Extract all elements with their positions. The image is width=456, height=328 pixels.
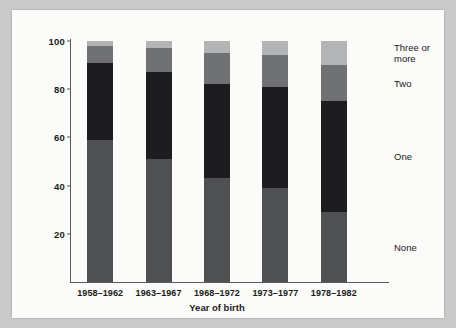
stacked-bar[interactable] — [87, 41, 113, 282]
x-axis-tick-label: 1978–1982 — [311, 288, 357, 298]
bar-segment-none[interactable] — [146, 159, 172, 282]
stacked-bar[interactable] — [204, 41, 230, 282]
bar-segment-one[interactable] — [321, 101, 347, 212]
bar-segment-three-or-more[interactable] — [262, 41, 288, 55]
legend-label-none: None — [394, 242, 417, 253]
x-axis-tick-label: 1958–1962 — [77, 288, 123, 298]
bar-segment-none[interactable] — [262, 188, 288, 282]
bar-segment-three-or-more[interactable] — [321, 41, 347, 65]
x-axis-tick-label: 1963–1967 — [136, 288, 182, 298]
bar-group[interactable]: 1958–1962 — [71, 41, 129, 282]
x-axis-line — [70, 282, 389, 283]
bar-segment-one[interactable] — [87, 63, 113, 140]
bar-segment-one[interactable] — [146, 72, 172, 159]
bar-segment-none[interactable] — [87, 140, 113, 282]
bar-segment-two[interactable] — [146, 48, 172, 72]
x-axis-tick-label: 1968–1972 — [194, 288, 240, 298]
bar-segment-three-or-more[interactable] — [146, 41, 172, 48]
stacked-bar[interactable] — [321, 41, 347, 282]
x-axis-title: Year of birth — [71, 302, 363, 313]
bar-segment-one[interactable] — [262, 87, 288, 188]
legend-label-one: One — [394, 151, 412, 162]
bar-segment-two[interactable] — [204, 53, 230, 84]
stacked-bar[interactable] — [146, 41, 172, 282]
legend-label-three-or-more: Three or more — [394, 42, 430, 64]
x-axis-tick-label: 1973–1977 — [252, 288, 298, 298]
bar-segment-two[interactable] — [321, 65, 347, 101]
bar-segment-none[interactable] — [204, 178, 230, 282]
bar-group[interactable]: 1963–1967 — [129, 41, 187, 282]
bar-segment-one[interactable] — [204, 84, 230, 178]
bar-group[interactable]: 1968–1972 — [188, 41, 246, 282]
chart-card: Percent of females cohabiting Year of bi… — [12, 10, 444, 318]
bar-group[interactable]: 1978–1982 — [305, 41, 363, 282]
bar-segment-two[interactable] — [87, 46, 113, 63]
bar-segment-two[interactable] — [262, 55, 288, 86]
bar-segment-none[interactable] — [321, 212, 347, 282]
plot-area: 204060801001958–19621963–19671968–197219… — [71, 41, 363, 282]
legend-label-two: Two — [394, 78, 411, 89]
bar-segment-three-or-more[interactable] — [204, 41, 230, 53]
bar-group[interactable]: 1973–1977 — [246, 41, 304, 282]
stacked-bar[interactable] — [262, 41, 288, 282]
